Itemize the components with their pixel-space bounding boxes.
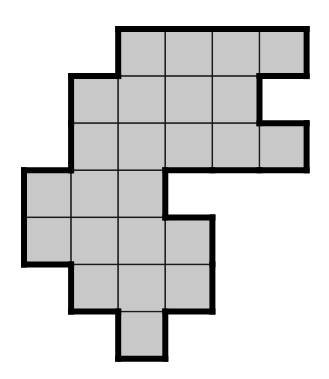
grid-cell (118, 29, 165, 76)
grid-cell (118, 170, 165, 217)
grid-cell (24, 217, 71, 264)
grid-cell (212, 123, 259, 170)
grid-cell (71, 217, 118, 264)
grid-cell (118, 76, 165, 123)
grid-cell (118, 265, 165, 312)
grid-cell (118, 217, 165, 264)
grid-cell (118, 312, 165, 359)
polyomino-diagram (0, 0, 329, 379)
grid-cell (212, 76, 259, 123)
grid-cell (24, 170, 71, 217)
grid-cell (212, 29, 259, 76)
grid-cell (165, 76, 212, 123)
grid-cell (165, 265, 212, 312)
grid-cell (165, 29, 212, 76)
grid-cell (71, 170, 118, 217)
grid-cell (118, 123, 165, 170)
grid-cell (165, 217, 212, 264)
grid-cell (71, 76, 118, 123)
grid-cell (165, 123, 212, 170)
grid-cell (71, 265, 118, 312)
grid-cell (260, 29, 307, 76)
grid-cell (260, 123, 307, 170)
grid-cell (71, 123, 118, 170)
